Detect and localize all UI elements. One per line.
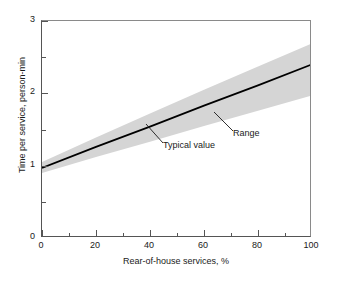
- x-tick-label: 60: [183, 240, 223, 251]
- y-tick-label: 0: [19, 231, 35, 242]
- x-tick-minor: [231, 233, 232, 237]
- y-tick-major: [42, 93, 48, 94]
- x-tick-label: 80: [237, 240, 277, 251]
- y-tick-label: 2: [19, 86, 35, 97]
- x-axis-label: Rear-of-house services, %: [41, 256, 311, 266]
- y-axis-label-wrapper: Time per service, person-min: [16, 5, 28, 225]
- annotation-typical-label: Typical value: [163, 140, 215, 151]
- x-tick-minor: [177, 233, 178, 237]
- annotation-range-label: Range: [233, 128, 260, 139]
- x-tick-major: [96, 230, 97, 236]
- x-tick-minor: [285, 233, 286, 237]
- annotation-leaders: [42, 21, 311, 237]
- x-tick-major: [150, 230, 151, 236]
- y-tick-major: [42, 166, 48, 167]
- x-tick-label: 20: [75, 240, 115, 251]
- y-tick-major: [42, 21, 48, 22]
- chart-figure: 020406080100 0123 Rear-of-house services…: [0, 0, 351, 282]
- y-axis-label: Time per service, person-min: [16, 5, 28, 225]
- y-tick-minor: [42, 130, 46, 131]
- x-tick-label: 40: [129, 240, 169, 251]
- plot-area: [41, 20, 311, 237]
- y-tick-label: 1: [19, 159, 35, 170]
- y-tick-minor: [42, 57, 46, 58]
- typical-leader-line: [146, 124, 163, 143]
- x-tick-major: [42, 230, 43, 236]
- range-leader-line: [214, 112, 233, 131]
- y-tick-label: 3: [19, 14, 35, 25]
- x-tick-minor: [123, 233, 124, 237]
- y-tick-minor: [42, 202, 46, 203]
- x-tick-major: [258, 230, 259, 236]
- x-tick-minor: [69, 233, 70, 237]
- x-tick-major: [204, 230, 205, 236]
- x-tick-label: 100: [291, 240, 331, 251]
